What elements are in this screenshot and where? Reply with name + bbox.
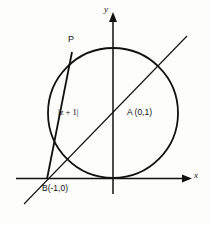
y-axis-label: y [104, 4, 108, 14]
figure-page: y x P A (0,1) B(-1,0) |z + 1| [0, 0, 210, 225]
point-label-P: P [68, 34, 74, 44]
x-axis [16, 175, 192, 183]
segment-label-modulus: |z + 1| [58, 107, 78, 117]
point-label-A: A (0,1) [127, 107, 152, 117]
y-axis-arrowhead [109, 12, 117, 22]
y-axis [109, 12, 117, 194]
point-label-B: B(-1,0) [42, 183, 68, 193]
x-axis-label: x [194, 170, 198, 180]
x-axis-arrowhead [182, 175, 192, 183]
geometry-figure [0, 0, 210, 225]
